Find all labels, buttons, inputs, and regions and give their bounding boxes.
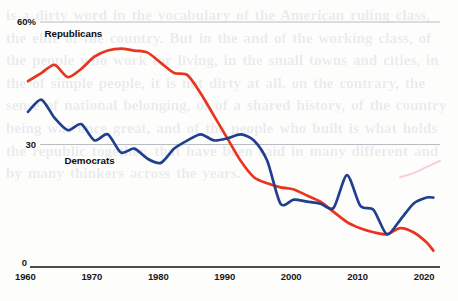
- x-tick-label-1960: 1960: [15, 271, 36, 282]
- x-tick-label-2010: 2010: [347, 271, 368, 282]
- chart-container: is a dirty word in the vocabulary of the…: [0, 0, 458, 301]
- series-lines-group: [28, 49, 440, 251]
- y-tick-label-60: 60%: [0, 16, 36, 27]
- x-tick-label-1980: 1980: [148, 271, 169, 282]
- y-tick-label-0: 0: [0, 257, 27, 268]
- series-line-democrats: [28, 100, 433, 235]
- series-label-republicans: Republicans: [45, 28, 103, 39]
- x-tick-label-1970: 1970: [81, 271, 102, 282]
- series-line-republicans: [28, 49, 433, 251]
- y-tick-label-30: 30: [0, 139, 36, 150]
- x-tick-label-1990: 1990: [214, 271, 235, 282]
- x-tick-label-2000: 2000: [281, 271, 302, 282]
- gridlines-group: [40, 22, 440, 145]
- x-tick-label-2020: 2020: [414, 271, 435, 282]
- series-line-trend-faint: [400, 161, 440, 177]
- chart-plot-area: [0, 0, 458, 301]
- series-label-democrats: Democrats: [64, 155, 114, 166]
